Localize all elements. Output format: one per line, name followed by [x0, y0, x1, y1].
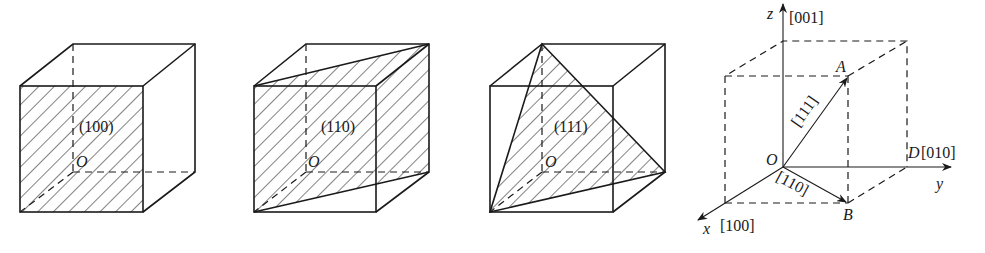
origin-label: O	[766, 151, 778, 168]
x-label: x	[702, 220, 710, 237]
crystal-planes-figure: (100) O (110) O (111) O	[0, 0, 985, 253]
point-d-label: D	[907, 144, 920, 161]
d-direction-label: [010]	[921, 144, 956, 161]
point-a-label: A	[835, 58, 846, 75]
origin-label: O	[76, 153, 88, 170]
origin-label: O	[308, 153, 320, 170]
origin-label: O	[545, 153, 557, 170]
plane-label-110: (110)	[321, 118, 355, 136]
cube-100: (100) O	[20, 44, 195, 212]
x-direction-label: [100]	[720, 217, 755, 234]
axes-diagram: z [001] A [111] O D [010] y [110] B x [1…	[698, 4, 956, 237]
vector-oa-label: [111]	[788, 93, 821, 130]
y-label: y	[934, 175, 944, 193]
z-direction-label: [001]	[789, 9, 824, 26]
x-axis	[698, 167, 783, 220]
z-label: z	[766, 5, 774, 22]
plane-100-hatch	[20, 86, 143, 212]
point-b-label: B	[843, 206, 853, 223]
plane-label-100: (100)	[79, 118, 114, 136]
plane-label-111: (111)	[554, 118, 587, 136]
cube-110: (110) O	[254, 44, 429, 212]
cube-111: (111) O	[490, 44, 665, 212]
